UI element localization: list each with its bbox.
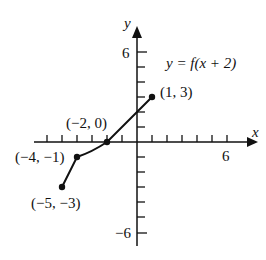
point-b xyxy=(74,154,80,160)
point-d-label: (1, 3) xyxy=(160,84,193,101)
y-tick-6: 6 xyxy=(122,45,130,61)
point-b-label: (−4, −1) xyxy=(15,149,64,166)
point-a-label: (−5, −3) xyxy=(31,195,80,212)
x-axis-label: x xyxy=(251,124,259,140)
y-axis-label: y xyxy=(122,15,131,31)
point-a xyxy=(59,184,65,190)
point-c-label: (−2, 0) xyxy=(66,115,107,132)
equation-label: y = f(x + 2) xyxy=(164,55,236,72)
point-d xyxy=(149,94,155,100)
y-tick-neg6: −6 xyxy=(115,225,131,241)
graph: y x 6 −6 6 y = f(x + 2) (1, 3) (−2, 0) (… xyxy=(0,0,266,260)
point-c xyxy=(104,139,110,145)
x-tick-6: 6 xyxy=(222,148,230,164)
y-axis-arrow-icon xyxy=(132,26,142,38)
